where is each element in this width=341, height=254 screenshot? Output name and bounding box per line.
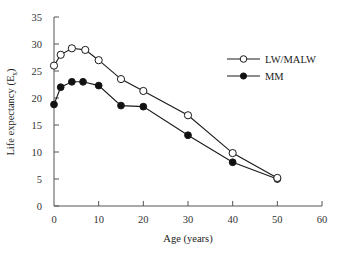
open-circle-marker <box>117 76 124 83</box>
filled-circle-marker <box>118 102 125 109</box>
open-circle-marker <box>229 149 236 156</box>
open-circle-marker <box>95 57 102 64</box>
x-tick-label: 30 <box>183 214 194 225</box>
y-tick-label: 5 <box>37 174 42 185</box>
filled-circle-marker <box>95 82 102 89</box>
x-tick-label: 10 <box>93 214 104 225</box>
x-tick-label: 0 <box>51 214 56 225</box>
open-circle-marker <box>57 51 64 58</box>
axes: 051015202530350102030405060 <box>32 12 328 226</box>
filled-circle-marker <box>229 159 236 166</box>
filled-circle-marker <box>185 132 192 139</box>
legend-label: LW/MALW <box>265 54 316 65</box>
series-layer <box>50 45 281 183</box>
y-tick-label: 30 <box>32 39 43 50</box>
open-circle-marker <box>140 87 147 94</box>
open-circle-marker <box>184 112 191 119</box>
y-axis-label: Life expectancy (Ex) <box>5 68 19 156</box>
open-circle-marker <box>68 45 75 52</box>
life-expectancy-chart: 051015202530350102030405060 LW/MALWMM Ag… <box>0 0 341 254</box>
filled-circle-marker <box>140 103 147 110</box>
legend-label: MM <box>265 71 284 82</box>
series-line <box>54 82 277 179</box>
open-circle-marker <box>82 46 89 53</box>
y-tick-label: 25 <box>32 66 43 77</box>
y-tick-label: 35 <box>32 12 43 23</box>
series-line <box>54 48 277 178</box>
filled-circle-marker <box>57 84 64 91</box>
open-circle-marker <box>274 174 281 181</box>
y-tick-label: 15 <box>32 120 43 131</box>
legend-item-lw-malw: LW/MALW <box>227 54 316 65</box>
y-tick-label: 0 <box>37 201 42 212</box>
legend-item-mm: MM <box>227 71 284 82</box>
x-tick-label: 20 <box>138 214 149 225</box>
x-axis-label: Age (years) <box>163 233 213 245</box>
filled-circle-marker <box>80 78 87 85</box>
series-lw-malw <box>50 45 281 182</box>
open-circle-marker <box>50 62 57 69</box>
filled-circle-marker <box>51 101 58 108</box>
x-tick-label: 60 <box>317 214 328 225</box>
filled-circle-marker <box>240 73 246 79</box>
series-mm <box>51 78 281 182</box>
y-tick-label: 10 <box>32 147 43 158</box>
y-tick-label: 20 <box>32 93 43 104</box>
x-tick-label: 50 <box>272 214 283 225</box>
legend: LW/MALWMM <box>227 54 316 82</box>
x-tick-label: 40 <box>227 214 238 225</box>
filled-circle-marker <box>68 78 75 85</box>
open-circle-marker <box>240 56 247 63</box>
